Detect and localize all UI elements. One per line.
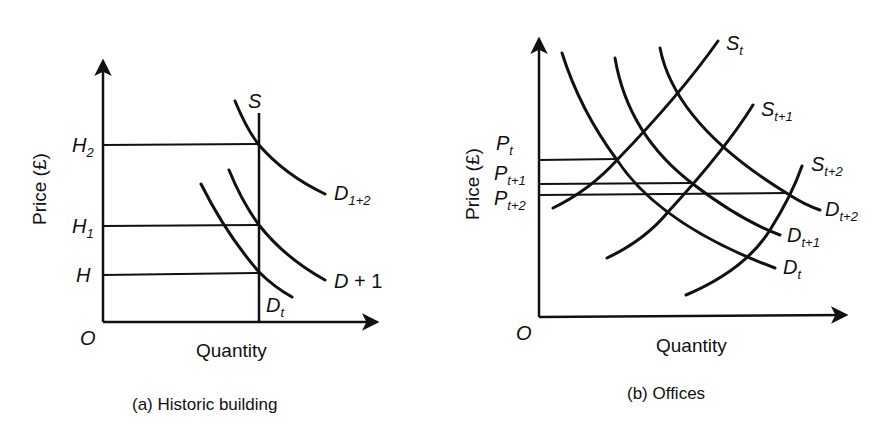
origin-label: O <box>80 327 96 349</box>
x-axis-label: Quantity <box>656 335 727 356</box>
label-pt1: Pt+1 <box>494 162 526 188</box>
demand-curve-dt <box>201 184 292 297</box>
supply-demand-figure: S H2 H1 H D1+2 D + 1 Dt O Quantity Price… <box>0 0 893 441</box>
label-dt: Dt <box>783 256 802 282</box>
panel-a-historic-building: S H2 H1 H D1+2 D + 1 Dt O Quantity Price… <box>29 62 382 414</box>
price-line-pt <box>539 159 617 160</box>
price-line-pt1 <box>539 183 693 184</box>
label-d1-2: D1+2 <box>334 182 371 208</box>
demand-curve-dt2 <box>660 48 820 210</box>
label-h2: H2 <box>72 134 94 160</box>
origin-label: O <box>516 322 532 344</box>
label-d-plus-1: D + 1 <box>334 270 382 292</box>
price-line-h2 <box>103 144 259 145</box>
label-st: St <box>726 32 744 58</box>
label-pt2: Pt+2 <box>494 187 527 213</box>
price-line-h <box>103 273 259 275</box>
label-s: S <box>248 90 262 112</box>
label-h1: H1 <box>72 215 94 241</box>
panel-b-offices: St St+1 St+2 Dt+2 Dt+1 Dt Pt Pt+1 Pt+2 O… <box>462 32 859 403</box>
price-line-h1 <box>103 225 259 226</box>
y-axis-label: Price (£) <box>462 148 483 220</box>
label-st2: St+2 <box>811 153 844 179</box>
demand-curve-dt1 <box>615 58 780 235</box>
label-dt2: Dt+2 <box>825 198 859 224</box>
x-axis <box>539 315 845 317</box>
caption-a: (a) Historic building <box>132 395 278 414</box>
label-pt: Pt <box>496 132 514 158</box>
label-st1: St+1 <box>761 98 793 124</box>
demand-curve-dt <box>562 53 775 268</box>
label-h: H <box>76 264 91 286</box>
demand-curve-d1-2 <box>235 101 325 194</box>
y-axis-label: Price (£) <box>29 153 50 225</box>
x-axis-label: Quantity <box>196 340 267 361</box>
label-dt: Dt <box>266 294 285 320</box>
label-dt1: Dt+1 <box>787 224 820 250</box>
caption-b: (b) Offices <box>627 384 705 403</box>
supply-curve-st1 <box>607 105 753 258</box>
